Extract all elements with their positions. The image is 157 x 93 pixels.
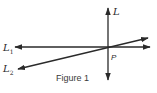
point-p-label: P [111, 53, 117, 62]
figure-caption: Figure 1 [56, 73, 89, 83]
line-l-label: L [112, 6, 120, 17]
line-l1-label: L1 [2, 42, 13, 55]
line-l2-label: L2 [2, 63, 14, 76]
line-l2 [18, 38, 148, 69]
figure-diagram: L L1 L2 P Figure 1 [0, 0, 157, 93]
